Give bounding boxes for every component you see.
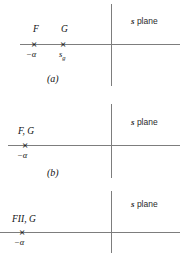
- panel-a: s plane F × −α G × sg (a): [0, 0, 185, 90]
- panel-b: s plane F, G × −α (b): [0, 90, 185, 178]
- panel-a-caption: (a): [47, 74, 59, 84]
- panel-a-pole-2-bottom-label: sg: [59, 50, 66, 61]
- panel-c-imaginary-axis: [111, 191, 112, 253]
- panel-a-real-axis: [20, 44, 180, 45]
- panel-a-imaginary-axis: [111, 4, 112, 86]
- panel-a-plane-label: s plane: [131, 17, 158, 26]
- panel-b-pole-1-bottom-label: −α: [17, 151, 27, 160]
- panel-c-pole-1-top-label: FII, G: [12, 215, 36, 225]
- panel-a-pole-2-bottom-sub: g: [62, 54, 65, 61]
- panel-c-real-axis: [0, 232, 180, 233]
- panel-a-pole-1-top-label: F: [33, 25, 39, 35]
- panel-c-plane-word: plane: [135, 199, 158, 209]
- panel-a-pole-1-bottom-label: −α: [26, 50, 36, 59]
- panel-b-plane-label: s plane: [131, 118, 158, 127]
- panel-b-imaginary-axis: [111, 104, 112, 178]
- panel-b-real-axis: [8, 145, 180, 146]
- panel-b-caption: (b): [47, 168, 59, 178]
- panel-c-plane-label: s plane: [131, 200, 158, 209]
- s-plane-pole-diagram: s plane F × −α G × sg (a) s plane F, G ×…: [0, 0, 185, 253]
- panel-c: s plane FII, G × −α: [0, 178, 185, 253]
- panel-a-pole-2-top-label: G: [61, 25, 68, 35]
- panel-b-plane-word: plane: [135, 117, 158, 127]
- panel-c-pole-1-bottom-label: −α: [14, 238, 24, 247]
- panel-a-plane-word: plane: [135, 16, 158, 26]
- panel-b-pole-1-top-label: F, G: [18, 127, 34, 137]
